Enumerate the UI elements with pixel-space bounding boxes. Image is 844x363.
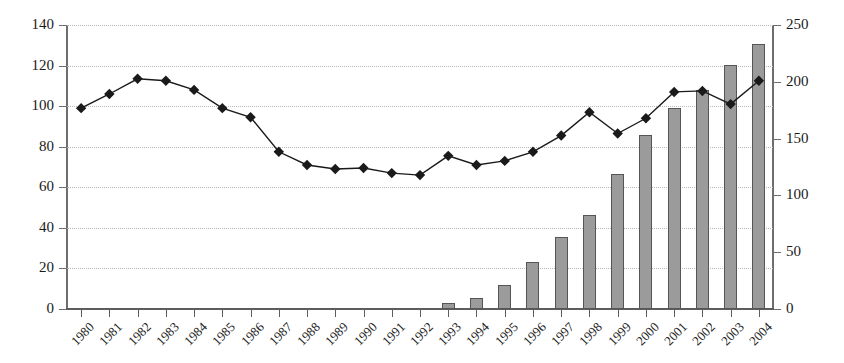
x-axis-tick: [166, 310, 167, 317]
left-axis-tick-label: 80: [12, 139, 54, 154]
left-axis-tick: [59, 147, 66, 148]
right-axis-tick-label: 0: [786, 301, 828, 316]
bar: [583, 215, 596, 309]
left-axis-tick: [59, 106, 66, 107]
left-axis-tick: [59, 187, 66, 188]
left-axis-tick-label: 60: [12, 179, 54, 194]
bar: [696, 90, 709, 309]
x-axis-tick: [674, 310, 675, 317]
x-axis-tick: [335, 310, 336, 317]
left-axis-tick-label: 100: [12, 98, 54, 113]
x-axis-tick: [533, 310, 534, 317]
right-axis-tick: [774, 82, 781, 83]
bar: [668, 108, 681, 309]
x-axis-tick: [731, 310, 732, 317]
x-axis-tick: [420, 310, 421, 317]
bar: [639, 135, 652, 309]
x-axis-tick: [618, 310, 619, 317]
bar: [724, 65, 737, 309]
right-axis-tick-label: 200: [786, 74, 828, 89]
bar: [526, 262, 539, 309]
left-axis-tick-label: 140: [12, 17, 54, 32]
x-axis-tick: [505, 310, 506, 317]
left-axis-tick: [59, 268, 66, 269]
x-axis-tick: [364, 310, 365, 317]
left-axis-tick-label: 120: [12, 58, 54, 73]
right-axis-tick: [774, 195, 781, 196]
right-axis-tick-label: 150: [786, 131, 828, 146]
bar: [470, 298, 483, 309]
x-axis-tick: [646, 310, 647, 317]
x-axis-tick: [307, 310, 308, 317]
x-axis-tick: [589, 310, 590, 317]
left-axis-tick-label: 20: [12, 260, 54, 275]
right-axis-tick: [774, 309, 781, 310]
left-axis-tick: [59, 25, 66, 26]
x-axis-tick: [561, 310, 562, 317]
x-axis-tick: [448, 310, 449, 317]
left-axis-tick: [59, 228, 66, 229]
x-axis-tick: [251, 310, 252, 317]
x-axis-tick: [702, 310, 703, 317]
bar: [442, 303, 455, 309]
gridline: [67, 66, 773, 67]
left-axis-tick-label: 0: [12, 301, 54, 316]
right-axis-tick: [774, 25, 781, 26]
x-axis-tick: [279, 310, 280, 317]
bar: [498, 285, 511, 309]
chart-container: 020406080100120140 050100150200250 19801…: [0, 0, 844, 363]
right-axis-tick-label: 100: [786, 187, 828, 202]
x-axis-tick: [81, 310, 82, 317]
gridline: [67, 25, 773, 26]
x-axis-tick: [476, 310, 477, 317]
left-axis-tick: [59, 309, 66, 310]
right-axis-tick: [774, 139, 781, 140]
left-axis-tick: [59, 66, 66, 67]
bar: [611, 174, 624, 309]
gridline: [67, 106, 773, 107]
x-axis-tick: [392, 310, 393, 317]
x-axis-tick: [138, 310, 139, 317]
bar: [555, 237, 568, 309]
left-axis-tick-label: 40: [12, 220, 54, 235]
x-axis-tick: [759, 310, 760, 317]
x-axis-tick: [222, 310, 223, 317]
right-axis-tick-label: 50: [786, 244, 828, 259]
x-axis-tick: [109, 310, 110, 317]
right-axis-tick-label: 250: [786, 17, 828, 32]
bar: [752, 44, 765, 309]
x-axis-tick: [194, 310, 195, 317]
right-axis-tick: [774, 252, 781, 253]
